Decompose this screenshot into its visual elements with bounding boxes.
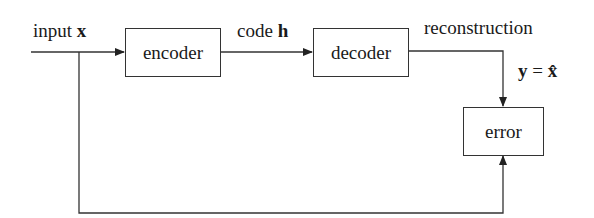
- code-label: code h: [237, 21, 288, 41]
- reconstruction-arrow: [408, 51, 503, 106]
- y-equals-xhat-label: y = x̂: [518, 61, 557, 81]
- decoder-block: decoder: [313, 28, 409, 77]
- reconstruction-label: reconstruction: [424, 18, 533, 38]
- encoder-block: encoder: [125, 28, 221, 77]
- error-block: error: [463, 107, 544, 156]
- input-label: input x: [33, 21, 86, 41]
